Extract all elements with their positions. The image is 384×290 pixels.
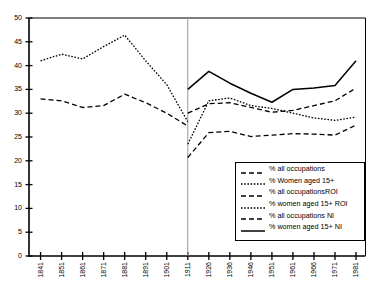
x-axis-tick-label: 1981 [352,262,360,278]
y-axis-tick-label: 20 [0,157,22,165]
legend-item-label: % women aged 15+ ROI [269,199,348,208]
series-line-1 [41,35,188,122]
series-line-4 [188,125,356,157]
legend-item-label: % all occupations [269,164,325,173]
x-axis-tick-label: 1851 [58,262,66,278]
x-axis-tick-label: 1926 [205,262,213,278]
legend-line-swatch-solid [240,222,266,232]
legend-item: % women aged 15+ NI [236,221,364,233]
y-axis-tick-label: 25 [0,133,22,141]
series-line-0 [41,94,188,126]
y-axis-tick-label: 15 [0,181,22,189]
legend-item: % all occupations [236,163,364,175]
legend-line-swatch-dotted [240,199,266,209]
x-axis-tick-label: 1911 [184,262,192,277]
x-axis-tick-label: 1861 [79,262,87,278]
chart-legend: % all occupations% Women aged 15+% all o… [235,162,365,241]
x-axis-tick-label: 1841 [37,262,45,278]
x-axis-tick-label: 1946 [247,262,255,278]
legend-item: % women aged 15+ ROI [236,198,364,210]
chart-plot-area [0,0,384,290]
legend-line-swatch-dashed [240,164,266,174]
legend-line-swatch-dotted [240,175,266,185]
x-axis-tick-label: 1901 [163,262,171,278]
legend-item-label: % Women aged 15+ [269,176,334,185]
series-line-5 [188,61,356,102]
chart-figure: 05101520253035404550 1841185118611871188… [0,0,384,290]
y-axis-tick-label: 30 [0,109,22,117]
y-axis-tick-label: 45 [0,38,22,46]
x-axis-tick-label: 1971 [331,262,339,278]
y-axis-tick-label: 0 [0,252,22,260]
x-axis-tick-label: 1891 [142,262,150,278]
legend-item: % all occupationsROI [236,186,364,198]
legend-item-label: % all occupationsROI [269,187,338,196]
legend-item: % all occupations NI [236,209,364,221]
y-axis-tick-label: 50 [0,14,22,22]
x-axis-tick-label: 1966 [310,262,318,278]
x-axis-tick-label: 1936 [226,262,234,278]
series-line-3 [188,98,356,144]
x-axis-tick-label: 1951 [268,262,276,278]
y-axis-tick-label: 5 [0,228,22,236]
legend-line-swatch-dashed [240,187,266,197]
y-axis-tick-label: 10 [0,204,22,212]
y-axis-tick-label: 40 [0,62,22,70]
legend-item-label: % women aged 15+ NI [269,222,342,231]
x-axis-tick-label: 1961 [289,262,297,278]
legend-line-swatch-dashed [240,210,266,220]
x-axis-tick-label: 1871 [100,262,108,278]
x-axis-tick-label: 1881 [121,262,129,278]
legend-item: % Women aged 15+ [236,175,364,187]
y-axis-tick-label: 35 [0,85,22,93]
legend-item-label: % all occupations NI [269,211,334,220]
